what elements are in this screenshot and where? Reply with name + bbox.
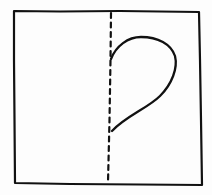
half-heart-outline (111, 37, 176, 131)
diagram-canvas: Hand-drawn square folded in half along a… (0, 0, 212, 195)
fold-line-dashed (108, 13, 111, 182)
diagram-svg (0, 0, 212, 195)
